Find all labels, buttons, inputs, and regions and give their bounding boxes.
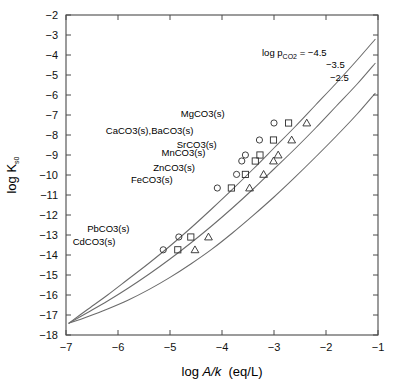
marker-circle [256,137,262,143]
pco2-annotation-group: log pCO2 = −4.5−3.5−2.5 [262,47,349,83]
x-tick-label: −6 [112,341,125,353]
compound-label: PbCO3(s) [87,223,129,234]
x-tick-label: −5 [164,341,177,353]
y-tick-label: −7 [45,109,58,121]
compound-label: MgCO3(s) [181,108,225,119]
marker-circle [214,185,220,191]
figure-container: −7−6−5−4−3−2−1 −2−3−4−5−6−7−8−9−10−11−12… [0,0,398,389]
compound-labels-group: MgCO3(s)CaCO3(s),BaCO3(s)SrCO3(s)MnCO3(s… [73,108,225,247]
marker-triangle [191,246,199,253]
y-tick-label: −17 [39,309,58,321]
y-tick-label: −8 [45,129,58,141]
x-axis-title: log A/k (eq/L) [182,364,263,379]
compound-label: CdCO3(s) [73,236,116,247]
marker-square [188,234,194,240]
y-tick-label: −9 [45,149,58,161]
x-tick-label: −7 [60,341,73,353]
marker-square [270,137,276,143]
marker-circle [233,171,239,177]
y-tick-label: −2 [45,9,58,21]
x-tick-label: −2 [320,341,333,353]
marker-circle [271,120,277,126]
y-tick-label: −16 [39,289,58,301]
x-tick-labels-group: −7−6−5−4−3−2−1 [60,341,385,353]
x-tick-label: −1 [372,341,385,353]
marker-square [252,158,258,164]
marker-triangle [205,233,213,240]
y-tick-label: −12 [39,209,58,221]
marker-circle [239,158,245,164]
y-tick-labels-group: −2−3−4−5−6−7−8−9−10−11−12−13−14−15−16−17… [39,9,58,341]
y-tick-label: −4 [45,49,58,61]
carbonate-solubility-chart: −7−6−5−4−3−2−1 −2−3−4−5−6−7−8−9−10−11−12… [0,0,398,389]
marker-triangle [274,151,282,158]
y-tick-label: −18 [39,329,58,341]
marker-triangle [303,119,311,126]
x-tick-label: −3 [268,341,281,353]
marker-square [257,152,263,158]
marker-triangle [288,136,296,143]
y-tick-label: −10 [39,169,58,181]
pco2-label-35: −3.5 [326,59,345,70]
y-tick-label: −15 [39,269,58,281]
pco2-label-25: −2.5 [330,72,349,83]
y-tick-label: −3 [45,29,58,41]
y-tick-label: −14 [39,249,58,261]
compound-label: MnCO3(s) [162,147,206,158]
compound-label: ZnCO3(s) [153,162,195,173]
marker-circle [242,152,248,158]
pco2-annotation-label: log pCO2 = −4.5 [262,47,327,60]
y-tick-label: −13 [39,229,58,241]
y-axis-title: log Ks0 [4,156,20,193]
x-tick-label: −4 [216,341,229,353]
curve-pco2-neg3.5 [69,63,376,323]
compound-label: CaCO3(s),BaCO3(s) [106,125,194,136]
compound-label: FeCO3(s) [131,174,173,185]
y-tick-label: −11 [40,189,58,201]
marker-square [285,120,291,126]
y-tick-label: −5 [45,69,58,81]
y-tick-label: −6 [45,89,58,101]
